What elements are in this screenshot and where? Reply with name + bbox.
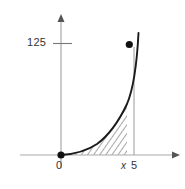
origin-point-marker (57, 151, 64, 158)
hatch-fill (55, 95, 135, 160)
figure-canvas (0, 0, 185, 189)
y-axis-arrow-icon (58, 14, 65, 22)
x-axis-arrow-icon (172, 152, 180, 159)
origin-label: 0 (56, 160, 62, 171)
area-under-curve-figure: 125 0 x 5 (0, 0, 185, 189)
y-axis-tick-label-125: 125 (27, 37, 46, 48)
x-variable-label: x (121, 161, 126, 171)
x-endpoint-label-5: 5 (131, 160, 137, 171)
area-under-curve-shading (55, 95, 135, 160)
endpoint-point-marker (126, 41, 133, 48)
